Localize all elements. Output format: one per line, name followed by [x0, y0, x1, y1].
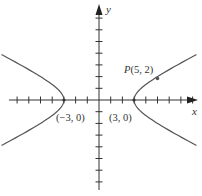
left-vertex-dot — [62, 98, 65, 101]
point-p-label: P(5, 2) — [123, 64, 154, 76]
point-p-coords: (5, 2) — [130, 64, 153, 76]
x-axis-label: x — [191, 105, 197, 117]
left-vertex-label: (−3, 0) — [56, 112, 85, 124]
y-axis-arrow-icon — [96, 4, 103, 15]
hyperbola-diagram: y x (−3, 0) (3, 0) P(5, 2) — [0, 0, 202, 196]
y-axis-label: y — [105, 3, 111, 15]
right-vertex-label: (3, 0) — [109, 112, 132, 124]
point-p-dot — [156, 77, 160, 81]
right-vertex-dot — [132, 98, 135, 101]
